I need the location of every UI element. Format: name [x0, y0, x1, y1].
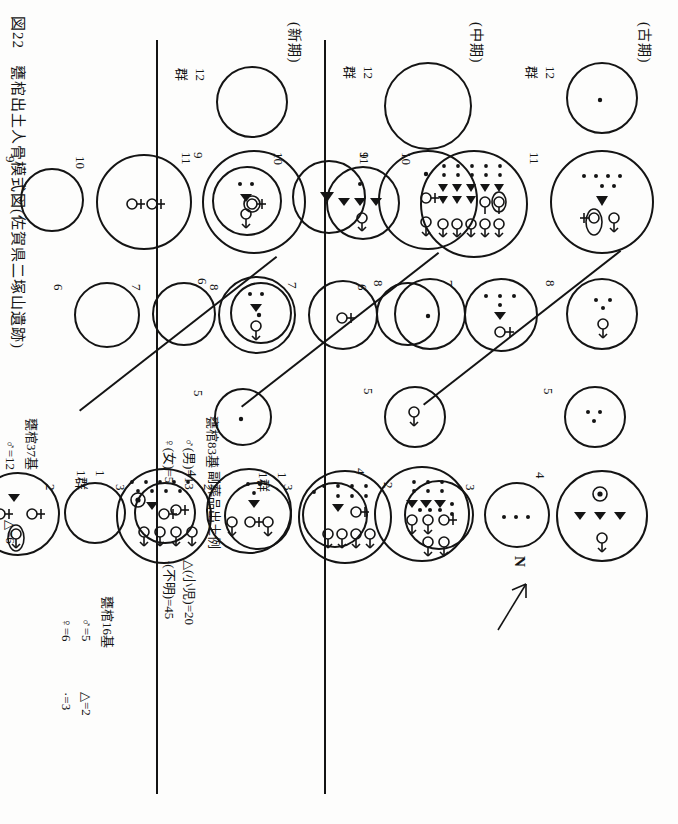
jar-total-label: 甕棺16基	[100, 596, 115, 648]
burial-circle	[64, 482, 126, 544]
panel-label-shinki: (新期)	[286, 22, 306, 63]
panel-count-child: △=2	[78, 692, 94, 716]
legend-entry-child: △(小児)=20	[181, 560, 200, 625]
group-number: 8	[206, 284, 222, 291]
panel-count-unknown: ·=3	[58, 692, 74, 710]
group-number: 11	[526, 152, 542, 165]
burial-circle	[556, 470, 648, 562]
burial-circle	[96, 154, 192, 250]
panel-separator	[156, 40, 158, 794]
group-number: 9	[2, 156, 18, 163]
panel-totals-chuki: 甕棺37基	[23, 418, 42, 470]
group-number: 5	[190, 390, 206, 397]
burial-circle	[214, 388, 272, 446]
group-number: 4	[184, 470, 200, 477]
figure-plate: 図22 甕棺出土人骨模式図(佐賀県二塚山遺跡) (古期) 12 群	[0, 0, 678, 824]
group-number: 1	[92, 470, 108, 477]
group-suffix: 群	[341, 66, 360, 79]
panel-label-kouki: (古期)	[636, 22, 656, 63]
burial-circle	[464, 278, 538, 352]
burial-circle	[384, 386, 446, 448]
burial-circle	[302, 482, 368, 548]
burial-circle	[550, 150, 654, 254]
legend-symbol-male: ♂	[182, 438, 197, 448]
group-suffix: 群	[523, 66, 542, 79]
burial-circle	[308, 280, 378, 350]
group-number: 7	[128, 284, 144, 291]
jar-total-label: 甕棺37基	[24, 418, 39, 470]
panel-count-male: ♂=5	[78, 618, 94, 642]
group-number: 10	[72, 156, 88, 169]
burial-circle	[20, 168, 84, 232]
group-number: 12	[360, 66, 376, 79]
burial-circle	[0, 472, 60, 556]
burial-circle	[374, 466, 470, 562]
legend-title-symbol: ○	[207, 460, 222, 468]
burial-circle	[384, 62, 472, 150]
group-number: 12	[542, 66, 558, 79]
burial-circle	[566, 62, 638, 134]
group-number: 8	[542, 280, 558, 287]
north-label: N	[511, 556, 528, 567]
group-number: 5	[360, 388, 376, 395]
group-suffix: 群	[173, 68, 192, 81]
burial-circle	[134, 482, 196, 544]
group-number: 5	[540, 388, 556, 395]
group-number: 6	[50, 284, 66, 291]
legend-symbol-female: ♀	[162, 438, 177, 448]
burial-circle	[216, 66, 288, 138]
burial-circle	[202, 150, 306, 254]
panel-count-male: ♂=12	[2, 440, 18, 470]
burial-circle	[230, 282, 292, 344]
panel-separator	[324, 40, 326, 794]
burial-circle	[564, 386, 626, 448]
north-arrow-icon	[488, 568, 538, 638]
burial-circle	[74, 282, 140, 348]
burial-circle	[484, 482, 550, 548]
panel-count-female: ♀=6	[58, 618, 74, 642]
burial-circle	[152, 282, 216, 346]
burial-circle	[378, 150, 478, 250]
legend-entry-unknown: ·(不明)=45	[161, 560, 180, 619]
panel-totals-shinki: 甕棺16基	[99, 596, 118, 648]
burial-circle	[566, 278, 638, 350]
group-number: 12	[192, 68, 208, 81]
group-number: 4	[532, 472, 548, 479]
group-number: 4	[352, 468, 368, 475]
panel-label-chuki: (中期)	[468, 22, 488, 63]
burial-circle	[394, 278, 466, 350]
burial-circle	[206, 468, 292, 554]
